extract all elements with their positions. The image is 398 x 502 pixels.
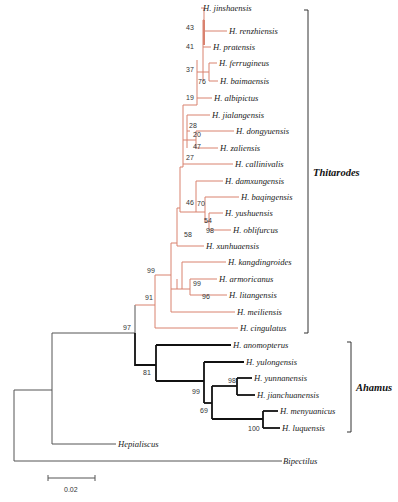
support-value: 96 (202, 293, 210, 300)
taxon-label: H. jianchuanensis (256, 390, 320, 400)
taxon-label: H. dongyuensis (235, 126, 290, 136)
phylogenetic-tree: Thitarodes Ahamus H. jinshaensis H. renz… (0, 0, 398, 502)
support-value: 58 (184, 231, 192, 238)
support-value: 100 (248, 425, 260, 432)
taxon-label: H. callinivalis (234, 159, 284, 169)
support-value: 99 (192, 388, 200, 395)
taxon-label: H. armoricanus (218, 274, 274, 284)
taxon-label: H. jinshaensis (202, 3, 252, 13)
taxon-label: H. luquensis (281, 423, 326, 433)
support-value: 69 (200, 407, 208, 414)
support-value: 97 (123, 324, 131, 331)
ahamus-bracket (347, 342, 351, 432)
scale-bar: 0.02 (48, 475, 95, 493)
support-value: 99 (147, 267, 155, 274)
support-value: 43 (186, 24, 194, 31)
taxon-label: H. meiliensis (236, 307, 283, 317)
taxon-label: H. litangensis (228, 290, 277, 300)
taxon-label: H. yulongensis (245, 357, 298, 367)
taxon-label: H. damxungensis (224, 176, 285, 186)
support-value: 41 (186, 43, 194, 50)
support-value: 99 (193, 280, 201, 287)
taxon-label: H. pratensis (212, 42, 256, 52)
support-value: 19 (186, 94, 194, 101)
taxon-label: H. renzhiensis (228, 26, 279, 36)
scale-bar-label: 0.02 (64, 486, 78, 493)
support-value: 27 (186, 154, 194, 161)
taxon-label: H. xunhuaensis (205, 241, 260, 251)
support-value: 37 (186, 66, 194, 73)
support-value: 76 (198, 78, 206, 85)
support-value: 91 (145, 294, 153, 301)
taxon-label: H. oblifurcus (232, 225, 279, 235)
taxon-label: H. albipictus (213, 93, 259, 103)
support-value: 54 (204, 217, 212, 224)
thitarodes-bracket (304, 10, 308, 333)
taxon-labels: H. jinshaensis H. renzhiensis H. pratens… (117, 3, 336, 466)
taxon-label: H. anomopterus (232, 340, 289, 350)
support-value: 98 (206, 227, 214, 234)
taxon-label: H. kangdingroides (227, 257, 292, 267)
ahamus-clade-label: Ahamus (355, 382, 392, 393)
support-value: 47 (193, 143, 201, 150)
taxon-label: H. baimaensis (219, 76, 270, 86)
taxon-label: H. yunnanensis (253, 373, 308, 383)
taxon-label: H. cingulatus (239, 323, 287, 333)
support-value: 81 (143, 369, 151, 376)
support-value: 46 (186, 199, 194, 206)
taxon-label: H. zaliensis (219, 143, 261, 153)
support-value: 20 (193, 131, 201, 138)
thitarodes-clade-label: Thitarodes (313, 167, 360, 178)
taxon-label: H. yushuensis (224, 208, 273, 218)
taxon-label: H. jialangensis (211, 110, 265, 120)
taxon-label: Hepialiscus (117, 439, 159, 449)
taxon-label: H. baqingensis (240, 192, 293, 202)
support-value: 98 (228, 377, 236, 384)
taxon-label: H. menyuanicus (279, 406, 336, 416)
support-value: 28 (189, 122, 197, 129)
taxon-label: H. ferrugineus (218, 58, 270, 68)
support-value: 70 (197, 200, 205, 207)
taxon-label: Bipectilus (283, 456, 318, 466)
